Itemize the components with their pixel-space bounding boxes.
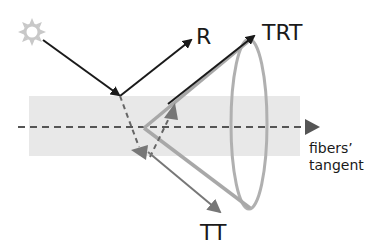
diagram-canvas	[0, 0, 371, 252]
sun-icon	[18, 18, 46, 46]
label-fiber-tangent: fibers’ tangent	[309, 140, 369, 174]
label-trt: TRT	[262, 22, 303, 44]
label-fiber-tangent-line1: fibers’	[309, 140, 369, 157]
incident-ray	[43, 40, 119, 95]
fiber-tangent-arrow-icon	[305, 119, 320, 135]
label-fiber-tangent-line2: tangent	[309, 157, 369, 174]
label-tt: TT	[200, 222, 227, 244]
reflected-ray-r	[120, 40, 191, 96]
scattering-diagram: R TRT TT fibers’ tangent	[0, 0, 371, 252]
label-r: R	[196, 26, 211, 48]
tt-ray	[148, 152, 220, 212]
